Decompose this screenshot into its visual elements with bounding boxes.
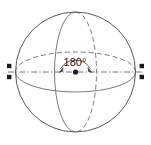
pole-marker-left-lower xyxy=(7,75,11,79)
angle-180-label: 180° xyxy=(64,56,87,68)
sphere-diagram-figure: 180° xyxy=(0,0,151,145)
sphere-center-point xyxy=(73,69,78,74)
sphere-diagram-svg: 180° xyxy=(0,0,151,145)
pole-marker-left-upper xyxy=(7,64,11,68)
pole-marker-right-lower xyxy=(140,75,144,79)
pole-marker-right-upper xyxy=(140,64,144,68)
